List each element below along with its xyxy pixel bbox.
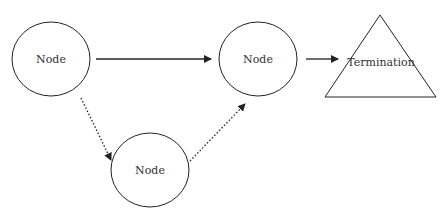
termination-node[interactable]: Termination — [325, 15, 436, 97]
node-3[interactable]: Node — [111, 133, 189, 207]
termination-label: Termination — [347, 56, 415, 69]
node-1[interactable]: Node — [12, 22, 90, 96]
flow-diagram: Node Node Node Termination — [0, 0, 446, 221]
edge-node1-to-node3-dotted-arrow — [81, 98, 111, 160]
node-2[interactable]: Node — [219, 22, 297, 96]
node-1-label: Node — [36, 53, 66, 66]
edge-node3-to-node2-dotted-arrow — [190, 104, 245, 161]
node-3-label: Node — [135, 164, 165, 177]
node-2-label: Node — [243, 53, 273, 66]
